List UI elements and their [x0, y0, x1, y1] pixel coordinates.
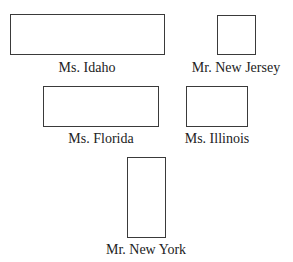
new-jersey-box	[217, 15, 256, 55]
new-york-box	[127, 157, 166, 238]
florida-label: Ms. Florida	[68, 131, 133, 147]
florida-box	[43, 86, 159, 127]
diagram-canvas: Ms. Idaho Mr. New Jersey Ms. Florida Ms.…	[0, 0, 293, 262]
illinois-box	[186, 86, 248, 127]
idaho-box	[10, 14, 165, 55]
new-york-label: Mr. New York	[106, 242, 186, 258]
illinois-label: Ms. Illinois	[185, 131, 250, 147]
new-jersey-label: Mr. New Jersey	[192, 60, 280, 76]
idaho-label: Ms. Idaho	[59, 60, 116, 76]
